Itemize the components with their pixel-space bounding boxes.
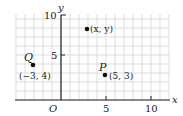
x-axis-label: x	[172, 94, 178, 105]
y-tick-label-5: 5	[51, 50, 57, 61]
coordinate-plane: x y O 5 10 5 10 Q (−3, 4) P (5, 3) (x, y…	[0, 0, 183, 116]
origin-label: O	[49, 103, 57, 114]
point-p-coords: (5, 3)	[109, 71, 133, 81]
y-axis-label: y	[57, 2, 64, 13]
point-xy-coords: (x, y)	[90, 24, 113, 34]
point-xy-marker	[85, 27, 90, 32]
x-tick-label-5: 5	[103, 103, 109, 114]
point-q-coords: (−3, 4)	[19, 71, 51, 81]
x-tick-label-10: 10	[145, 103, 158, 114]
y-tick-label-10: 10	[44, 10, 57, 21]
point-q-name: Q	[24, 51, 33, 64]
point-p-name: P	[98, 61, 107, 74]
